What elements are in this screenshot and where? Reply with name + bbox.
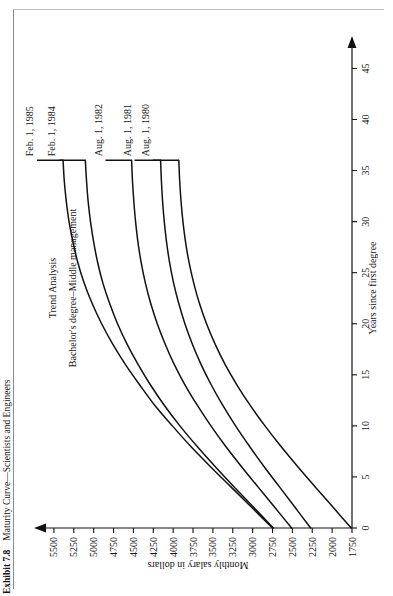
series-labels: Feb. 1, 1985Feb. 1, 1984Aug. 1, 1982Aug.… [24, 104, 151, 156]
y-tick-label: 5500 [48, 537, 59, 557]
y-tick-label: 2250 [307, 537, 318, 557]
series-label: Feb. 1, 1984 [46, 106, 57, 156]
y-tick-label: 4750 [108, 537, 119, 557]
y-tick-label: 2750 [267, 537, 278, 557]
y-tick-label: 4000 [168, 537, 179, 557]
y-tick-label: 2500 [287, 537, 298, 557]
exhibit-number: Exhibit 7.8 [2, 550, 12, 594]
y-tick-label: 5250 [68, 537, 79, 557]
x-axis-label: Years since first degree [367, 241, 378, 335]
y-tick-label: 3000 [247, 537, 258, 557]
y-tick-label: 5000 [88, 537, 99, 557]
series-curve [179, 160, 351, 528]
y-tick-labels: 1750200022502500275030003250350037504000… [48, 537, 357, 557]
series-curves [63, 160, 351, 528]
y-tick-label: 2000 [327, 537, 338, 557]
series-label: Aug. 1, 1981 [122, 104, 133, 156]
y-tick-label: 1750 [347, 537, 358, 557]
x-tick-label: 30 [360, 217, 371, 227]
y-tick-label: 3250 [227, 537, 238, 557]
series-curve [63, 160, 272, 528]
x-tick-label: 35 [360, 166, 371, 176]
y-tick-label: 4500 [128, 537, 139, 557]
y-tick-label: 3500 [207, 537, 218, 557]
chart-stage: 1750200022502500275030003250350037504000… [22, 16, 378, 588]
x-tick-label: 5 [360, 474, 371, 479]
y-tick-label: 4250 [148, 537, 159, 557]
y-axis-arrowhead [34, 524, 46, 533]
series-curve [161, 160, 311, 528]
x-axis-arrowhead [348, 36, 357, 48]
x-tick-label: 10 [360, 421, 371, 431]
chart-title: Trend Analysis [47, 258, 58, 319]
y-tick-marks [54, 528, 352, 533]
chart-svg: 1750200022502500275030003250350037504000… [22, 16, 378, 588]
x-tick-label: 15 [360, 370, 371, 380]
y-tick-label: 3750 [188, 537, 199, 557]
x-tick-label: 40 [360, 114, 371, 124]
x-tick-label: 45 [360, 63, 371, 73]
y-axis-label: Monthly salary in dollars [147, 560, 248, 571]
axes [34, 36, 356, 532]
series-label: Feb. 1, 1985 [24, 106, 35, 156]
series-label: Aug. 1, 1980 [140, 104, 151, 156]
exhibit-title: Maturity Curve—Scientists and Engineers [2, 379, 12, 549]
maturity-curve-chart: 1750200022502500275030003250350037504000… [22, 16, 378, 588]
x-tick-label: 0 [360, 526, 371, 531]
x-tick-marks [352, 68, 357, 528]
exhibit-caption: Exhibit 7.8Maturity Curve—Scientists and… [0, 0, 16, 596]
scanned-page: Exhibit 7.8Maturity Curve—Scientists and… [0, 0, 393, 596]
series-label: Aug. 1, 1982 [93, 104, 104, 156]
series-curve [132, 160, 292, 528]
chart-subtitle: Bachelor's degree–Middle management [67, 209, 78, 368]
